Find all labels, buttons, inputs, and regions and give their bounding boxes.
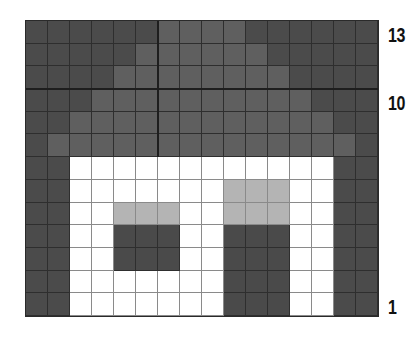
grid-cell bbox=[48, 293, 70, 316]
grid-cell bbox=[48, 44, 70, 67]
grid-cell bbox=[180, 180, 202, 203]
grid-cell bbox=[312, 248, 334, 271]
grid-cell bbox=[268, 157, 290, 180]
grid-cell bbox=[290, 180, 312, 203]
grid-cell bbox=[158, 225, 180, 248]
grid-cell bbox=[114, 248, 136, 271]
grid-cell bbox=[290, 134, 312, 157]
grid-cell bbox=[180, 134, 202, 157]
grid-cell bbox=[312, 157, 334, 180]
grid-cell bbox=[290, 225, 312, 248]
grid-cell bbox=[334, 225, 356, 248]
grid-cell bbox=[246, 66, 268, 89]
grid-cell bbox=[114, 21, 136, 44]
grid-cell bbox=[356, 66, 378, 89]
grid-cell bbox=[70, 134, 92, 157]
grid-cell bbox=[224, 180, 246, 203]
grid-cell bbox=[70, 89, 92, 112]
row-label-13: 13 bbox=[388, 24, 405, 47]
grid-cell bbox=[202, 293, 224, 316]
grid-cell bbox=[224, 89, 246, 112]
grid-cell bbox=[26, 293, 48, 316]
grid-cell bbox=[92, 203, 114, 226]
grid-cell bbox=[180, 66, 202, 89]
grid-cell bbox=[224, 44, 246, 67]
grid-cell bbox=[290, 271, 312, 294]
grid-cell bbox=[70, 225, 92, 248]
grid-cell bbox=[224, 271, 246, 294]
grid-cell bbox=[158, 21, 180, 44]
grid-cell bbox=[114, 44, 136, 67]
grid-cell bbox=[268, 248, 290, 271]
grid-cell bbox=[356, 89, 378, 112]
grid-cell bbox=[136, 66, 158, 89]
grid-cell bbox=[26, 89, 48, 112]
grid-cell bbox=[246, 89, 268, 112]
grid-cell bbox=[246, 225, 268, 248]
grid-cell bbox=[334, 157, 356, 180]
grid-cell bbox=[48, 89, 70, 112]
row-label-10: 10 bbox=[388, 92, 405, 115]
grid-cell bbox=[202, 89, 224, 112]
grid-cell bbox=[136, 134, 158, 157]
grid-cell bbox=[70, 203, 92, 226]
grid-cell bbox=[202, 203, 224, 226]
grid-cell bbox=[312, 44, 334, 67]
grid-cell bbox=[136, 89, 158, 112]
grid-cell bbox=[92, 157, 114, 180]
grid-cell bbox=[180, 44, 202, 67]
grid-cell bbox=[312, 89, 334, 112]
grid-cell bbox=[48, 66, 70, 89]
grid-cell bbox=[158, 66, 180, 89]
grid-cell bbox=[312, 271, 334, 294]
grid-cell bbox=[136, 157, 158, 180]
grid-cell bbox=[356, 112, 378, 135]
grid-cell bbox=[312, 180, 334, 203]
grid-cell bbox=[70, 293, 92, 316]
grid-cell bbox=[158, 157, 180, 180]
grid-cell bbox=[180, 293, 202, 316]
grid-cell bbox=[268, 112, 290, 135]
grid-cell bbox=[92, 21, 114, 44]
grid-cell bbox=[180, 271, 202, 294]
grid-cell bbox=[224, 157, 246, 180]
grid-cell bbox=[70, 180, 92, 203]
grid-cell bbox=[48, 157, 70, 180]
grid-cell bbox=[268, 203, 290, 226]
grid-cell bbox=[114, 225, 136, 248]
grid-cell bbox=[92, 293, 114, 316]
grid-cell bbox=[312, 66, 334, 89]
grid-cell bbox=[26, 180, 48, 203]
grid-cell bbox=[334, 21, 356, 44]
grid-cell bbox=[246, 180, 268, 203]
grid-cell bbox=[356, 21, 378, 44]
grid-cell bbox=[246, 293, 268, 316]
grid-cell bbox=[92, 180, 114, 203]
grid-cell bbox=[136, 203, 158, 226]
grid-cell bbox=[26, 44, 48, 67]
grid-cell bbox=[290, 112, 312, 135]
grid-cell bbox=[290, 157, 312, 180]
grid-cell bbox=[158, 271, 180, 294]
grid-cell bbox=[246, 271, 268, 294]
grid-cell bbox=[92, 89, 114, 112]
grid-cell bbox=[224, 66, 246, 89]
grid-cell bbox=[202, 180, 224, 203]
grid-cell bbox=[246, 112, 268, 135]
grid-cell bbox=[136, 293, 158, 316]
grid-cell bbox=[268, 66, 290, 89]
grid-cell bbox=[224, 293, 246, 316]
grid-cell bbox=[202, 44, 224, 67]
grid-cell bbox=[48, 112, 70, 135]
grid-cell bbox=[180, 203, 202, 226]
grid-cell bbox=[290, 203, 312, 226]
grid-cell bbox=[202, 112, 224, 135]
grid-cell bbox=[334, 44, 356, 67]
grid-cell bbox=[158, 180, 180, 203]
grid-cell bbox=[92, 44, 114, 67]
grid-cell bbox=[334, 248, 356, 271]
grid-cell bbox=[356, 203, 378, 226]
grid-cell bbox=[158, 89, 180, 112]
grid-cell bbox=[202, 21, 224, 44]
grid-cell bbox=[114, 293, 136, 316]
